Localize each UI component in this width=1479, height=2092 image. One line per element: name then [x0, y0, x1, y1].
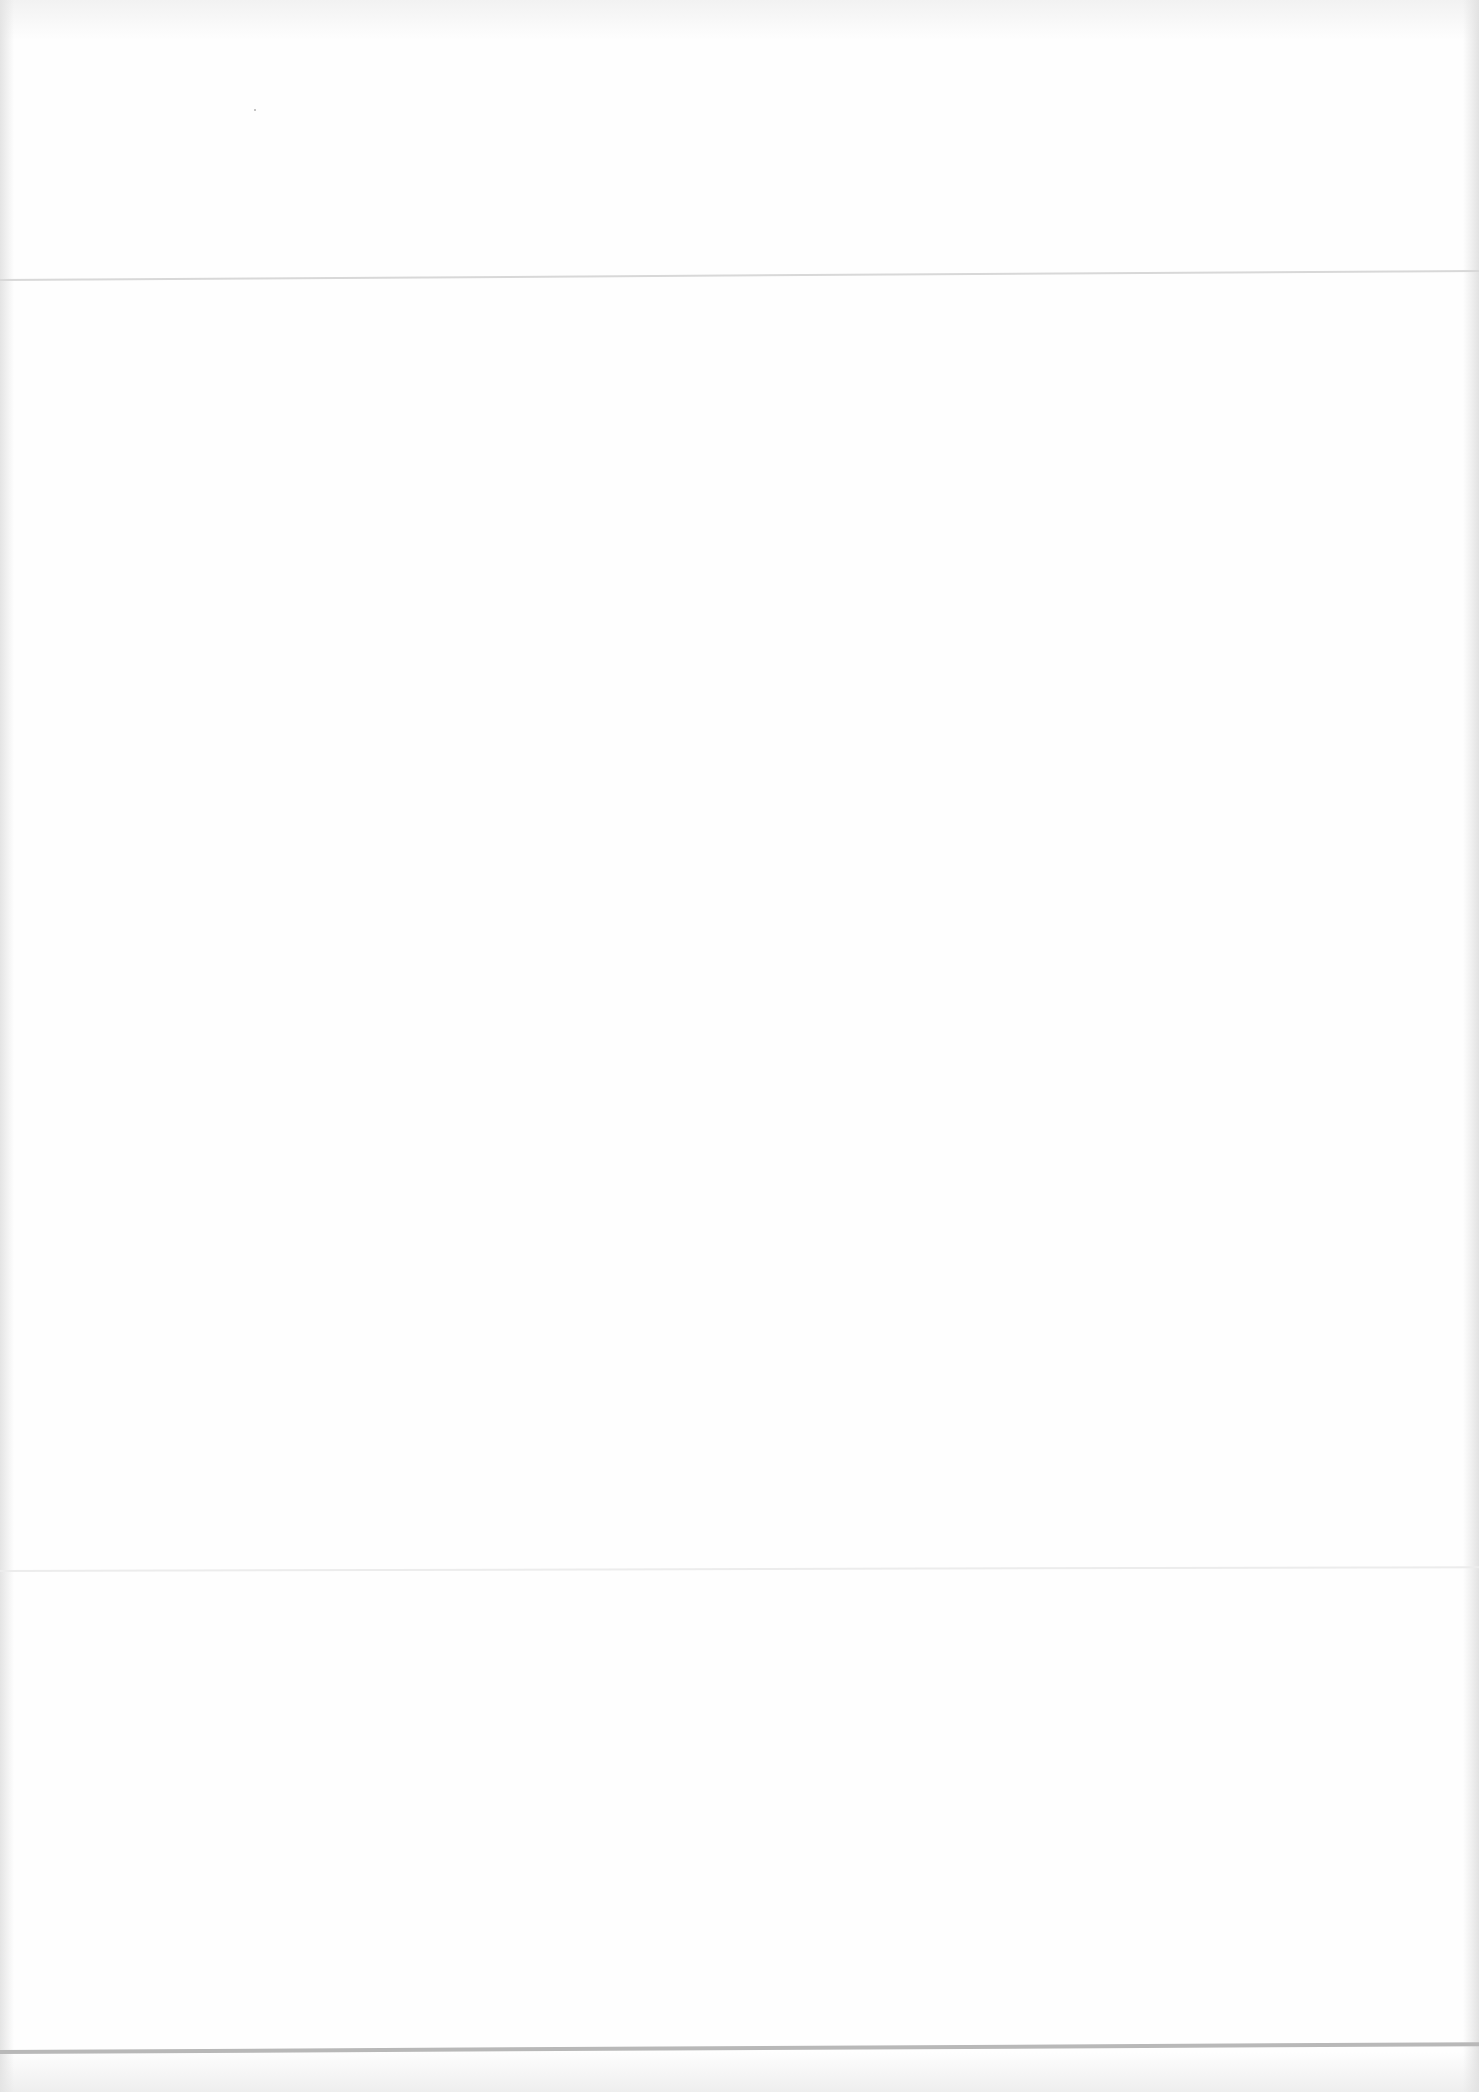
scan-speck — [254, 109, 256, 111]
page-edge-shadow-bottom — [0, 2052, 1479, 2092]
page-edge-shadow-left — [0, 0, 14, 2092]
fold-line-middle — [0, 1566, 1479, 1572]
page-edge-shadow-top — [0, 0, 1479, 40]
fold-line-top — [0, 270, 1479, 281]
page-edge-shadow-right — [1463, 0, 1479, 2092]
blank-page — [0, 0, 1479, 2092]
